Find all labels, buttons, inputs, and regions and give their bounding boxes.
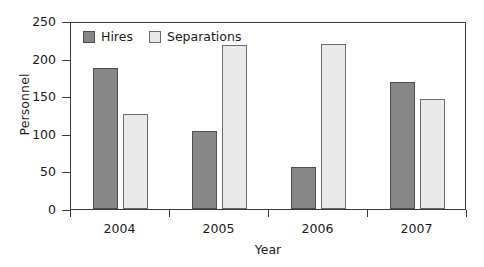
y-tick-label-150: 150 [10,91,56,104]
y-tick-mark-200 [62,60,70,61]
y-tick-mark-250 [62,22,70,23]
x-tick-label-2006: 2006 [268,221,367,236]
bar-separations-2005 [222,45,247,209]
bar-hires-2006 [291,167,316,209]
bar-separations-2006 [321,44,346,209]
plot-area: Hires Separations [70,22,466,210]
y-tick-mark-150 [62,97,70,98]
x-tick-label-2007: 2007 [367,221,466,236]
x-tick-label-2005: 2005 [169,221,268,236]
legend-entry-hires: Hires [83,29,133,44]
x-tick-mark-right-edge [466,210,467,217]
y-tick-label-200: 200 [10,54,56,67]
legend-label-hires: Hires [101,29,133,44]
y-tick-label-250: 250 [10,16,56,29]
x-tick-mark-3 [367,210,368,217]
bar-separations-2007 [420,99,445,209]
x-tick-mark-left-edge [70,210,71,217]
x-tick-label-2004: 2004 [70,221,169,236]
bar-hires-2007 [390,82,415,209]
bar-chart-figure: Personnel 250 200 150 100 50 0 Hires Sep… [0,0,484,267]
y-tick-mark-0 [62,210,70,211]
chart-legend: Hires Separations [83,29,241,44]
legend-swatch-separations-icon [149,31,161,43]
bar-hires-2004 [93,68,118,209]
bar-separations-2004 [123,114,148,209]
legend-label-separations: Separations [167,29,241,44]
x-tick-mark-1 [169,210,170,217]
y-tick-label-0: 0 [10,204,56,217]
x-tick-mark-2 [268,210,269,217]
y-tick-mark-100 [62,135,70,136]
legend-swatch-hires-icon [83,31,95,43]
legend-entry-separations: Separations [149,29,241,44]
y-tick-label-100: 100 [10,129,56,142]
y-tick-label-50: 50 [10,166,56,179]
bar-hires-2005 [192,131,217,209]
x-axis-label: Year [70,242,466,257]
y-tick-mark-50 [62,172,70,173]
